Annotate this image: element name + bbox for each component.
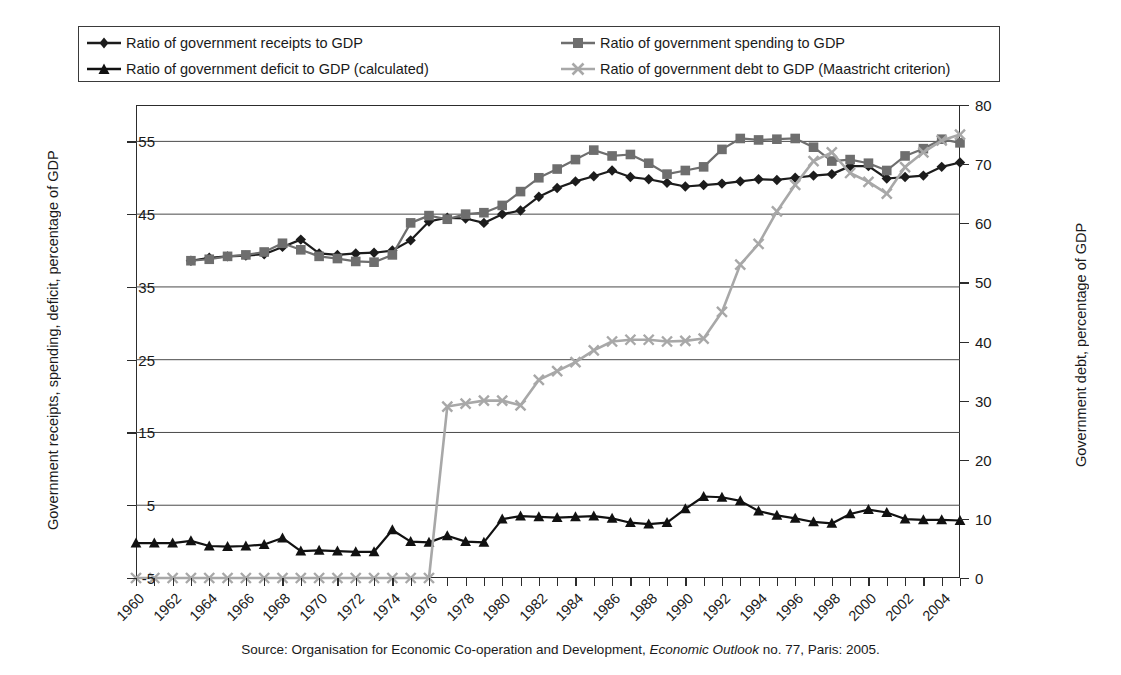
x-axis-tick-label: 1980 [470,590,514,634]
y-axis-right-tickmark [960,223,969,224]
y-axis-left-tickmark [127,287,136,288]
x-axis-tick-label: 1976 [396,590,440,634]
legend-row-1: Ratio of government receipts to GDP Rati… [87,30,991,56]
y-axis-left-tick: 55 [95,133,155,150]
x-axis-tickmark [154,578,155,586]
y-axis-left-tick: 25 [95,351,155,368]
x-axis-tickmark [411,578,412,586]
x-axis-tickmark [484,578,485,586]
y-axis-right-tick: 50 [975,274,1015,291]
source-italic-title: Economic Outlook [649,642,759,657]
y-axis-right-tickmark [960,342,969,343]
x-axis-tickmark [704,578,705,586]
legend-label-spending: Ratio of government spending to GDP [600,36,845,51]
chart-legend: Ratio of government receipts to GDP Rati… [78,26,1000,82]
x-axis-tick-label: 1964 [177,590,221,634]
legend-row-2: Ratio of government deficit to GDP (calc… [87,56,991,82]
y-axis-right-tickmark [960,578,969,579]
y-axis-right-tickmark [960,460,969,461]
chart-plot-area [136,105,960,578]
x-axis-tickmark [136,578,137,586]
x-axis-tickmark [575,578,576,586]
square-marker-icon [561,35,595,51]
x-axis-tickmark [923,578,924,586]
x-axis-tickmark [759,578,760,586]
x-axis-tickmark [228,578,229,586]
x-axis-tickmark [282,578,283,586]
x-axis-tickmark [374,578,375,586]
x-axis-tickmark [557,578,558,586]
x-axis-tickmark [960,578,961,586]
x-axis-tickmark [740,578,741,586]
x-axis-tickmark [539,578,540,586]
x-marker-icon [561,61,595,77]
x-axis-tickmark [429,578,430,586]
y-axis-left-tick: 5 [95,497,155,514]
y-axis-right-tickmark [960,401,969,402]
diamond-marker-icon [87,35,121,51]
x-axis-tickmark [887,578,888,586]
x-axis-tick-label: 1992 [689,590,733,634]
x-axis-tickmark [649,578,650,586]
legend-label-receipts: Ratio of government receipts to GDP [126,36,363,51]
x-axis-tick-label: 2002 [873,590,917,634]
legend-label-debt: Ratio of government debt to GDP (Maastri… [600,62,950,77]
x-axis-tick-label: 1974 [360,590,404,634]
y-axis-right-title: Government debt, percentage of GDP [1072,180,1094,510]
y-axis-left-tick: 15 [95,424,155,441]
y-axis-right-tickmark [960,519,969,520]
y-axis-left-tick: 45 [95,206,155,223]
y-axis-right-tick: 30 [975,392,1015,409]
y-axis-left-tickmark [127,214,136,215]
x-axis-tickmark [630,578,631,586]
x-axis-tick-label: 1968 [250,590,294,634]
y-axis-right-tick: 70 [975,156,1015,173]
source-suffix: no. 77, Paris: 2005. [759,642,880,657]
y-axis-left-tickmark [127,141,136,142]
x-axis-tickmark [832,578,833,586]
x-axis-tickmark [612,578,613,586]
y-axis-right-tickmark [960,282,969,283]
y-axis-right-tickmark [960,105,969,106]
x-axis-tick-label: 1982 [506,590,550,634]
x-axis-tick-label: 1970 [287,590,331,634]
x-axis-tickmark [795,578,796,586]
x-axis-tickmark [264,578,265,586]
legend-item-deficit: Ratio of government deficit to GDP (calc… [87,61,561,77]
x-axis-tick-label: 1994 [726,590,770,634]
x-axis-tick-label: 1966 [213,590,257,634]
x-axis-tickmark [850,578,851,586]
x-axis-tickmark [191,578,192,586]
y-axis-right-tick: 60 [975,215,1015,232]
x-axis-tickmark [777,578,778,586]
legend-item-spending: Ratio of government spending to GDP [561,35,845,51]
x-axis-tick-label: 2000 [836,590,880,634]
y-axis-left-tickmark [127,505,136,506]
y-axis-left-tickmark [127,578,136,579]
y-axis-right-tick: 80 [975,97,1015,114]
x-axis-tickmark [356,578,357,586]
legend-item-receipts: Ratio of government receipts to GDP [87,35,561,51]
x-axis-tickmark [868,578,869,586]
source-note: Source: Organisation for Economic Co-ope… [0,642,1121,657]
y-axis-left-tickmark [127,360,136,361]
x-axis-tickmark [337,578,338,586]
legend-label-deficit: Ratio of government deficit to GDP (calc… [126,62,429,77]
y-axis-right-tick: 40 [975,333,1015,350]
x-axis-tickmark [466,578,467,586]
x-axis-tickmark [392,578,393,586]
x-axis-tick-label: 1972 [323,590,367,634]
y-axis-left-tick: 35 [95,278,155,295]
x-axis-tick-label: 1978 [433,590,477,634]
x-axis-tick-label: 1960 [103,590,147,634]
x-axis-tickmark [301,578,302,586]
x-axis-tick-label: 1996 [763,590,807,634]
x-axis-tickmark [594,578,595,586]
x-axis-tickmark [685,578,686,586]
source-prefix: Source: Organisation for Economic Co-ope… [241,642,649,657]
y-axis-left-tick: -5 [95,570,155,587]
x-axis-tickmark [521,578,522,586]
triangle-marker-icon [87,61,121,77]
x-axis-tick-label: 2004 [909,590,953,634]
x-axis-tickmark [209,578,210,586]
